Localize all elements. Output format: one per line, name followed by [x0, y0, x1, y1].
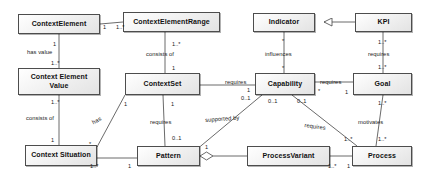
multiplicity-label: 0..1 — [172, 135, 182, 141]
multiplicity-label: 1..* — [51, 99, 60, 105]
node-context-element-value[interactable]: Context Element Value — [18, 68, 100, 95]
multiplicity-label: 1 — [347, 163, 350, 169]
multiplicity-label: 1 — [53, 41, 56, 47]
multiplicity-label: * — [282, 65, 284, 71]
multiplicity-label: 1..* — [90, 163, 99, 169]
aggregation-diamond — [200, 152, 213, 160]
edge-label-motivates: motivates — [358, 119, 383, 125]
multiplicity-label: 1 — [205, 144, 208, 150]
node-context-element[interactable]: ContextElement — [18, 14, 100, 34]
multiplicity-label: 1..* — [116, 24, 125, 30]
multiplicity-label: 1 — [345, 89, 348, 95]
multiplicity-label: 0..1 — [241, 95, 251, 101]
multiplicity-label: * — [318, 88, 320, 94]
multiplicity-label: 1 — [103, 24, 106, 30]
node-process-variant[interactable]: ProcessVariant — [247, 146, 330, 166]
multiplicity-label: 1..* — [378, 100, 387, 106]
edge-label-requires-kpi-goal: requires — [368, 51, 389, 57]
edge-label-influences: influences — [265, 51, 292, 57]
node-capability[interactable]: Capability — [255, 73, 315, 95]
node-context-set[interactable]: ContextSet — [125, 73, 200, 95]
node-indicator[interactable]: Indicator — [253, 13, 315, 32]
multiplicity-label: 0..1 — [268, 98, 278, 104]
node-context-element-range[interactable]: ContextElementRange — [123, 12, 220, 32]
multiplicity-label: 1..* — [344, 136, 353, 142]
multiplicity-label: 1 — [51, 137, 54, 143]
uml-class-diagram: ContextElement ContextElementRange Conte… — [0, 0, 433, 176]
multiplicity-label: * — [282, 38, 284, 44]
multiplicity-label: 0..1 — [297, 98, 307, 104]
multiplicity-label: 1 — [128, 163, 131, 169]
node-context-situation[interactable]: Context Situation — [25, 145, 97, 166]
multiplicity-label: 1..* — [378, 136, 387, 142]
multiplicity-label: 1 — [172, 65, 175, 71]
multiplicity-label: 1..* — [51, 60, 60, 66]
edge-label-consists-of: consists of — [146, 51, 174, 57]
multiplicity-label: 1 — [247, 87, 250, 93]
multiplicity-label: 1..* — [378, 39, 387, 45]
multiplicity-label: 1 — [124, 101, 127, 107]
node-process[interactable]: Process — [352, 146, 412, 166]
multiplicity-label: 1..* — [378, 64, 387, 70]
edge-label-has-value: has value — [27, 49, 52, 55]
multiplicity-label: 1..* — [172, 41, 181, 47]
multiplicity-label: 1 — [171, 101, 174, 107]
edge-label-requires-pattern: requires — [150, 119, 171, 125]
multiplicity-label: * — [89, 141, 91, 147]
edge-label-requires-goal: requires — [320, 79, 341, 85]
node-pattern[interactable]: Pattern — [137, 146, 200, 166]
node-kpi[interactable]: KPI — [355, 13, 412, 32]
multiplicity-label: 1..* — [328, 163, 337, 169]
edge-label-requires-capability: requires — [225, 79, 246, 85]
node-goal[interactable]: Goal — [353, 73, 412, 95]
edge-label-consists-of-2: consists of — [26, 115, 54, 121]
